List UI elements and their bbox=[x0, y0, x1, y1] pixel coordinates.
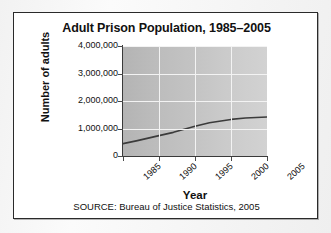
y-axis-tick-label: 2,000,000 bbox=[48, 95, 118, 105]
figure-page: Adult Prison Population, 1985–2005 Numbe… bbox=[0, 0, 331, 233]
x-axis-tick-label: 1990 bbox=[177, 161, 199, 182]
y-axis-tick-mark bbox=[118, 129, 123, 130]
x-axis-tick-label: 1985 bbox=[141, 161, 163, 182]
x-axis-tick-mark bbox=[267, 157, 268, 161]
source-note: SOURCE: Bureau of Justice Statistics, 20… bbox=[14, 201, 319, 212]
y-axis-tick-mark bbox=[118, 101, 123, 102]
x-axis-tick-mark bbox=[231, 157, 232, 161]
y-axis-tick-mark bbox=[118, 74, 123, 75]
y-axis-tick-labels: 01,000,0002,000,0003,000,0004,000,000 bbox=[46, 13, 118, 213]
y-axis-tick-label: 0 bbox=[48, 150, 118, 160]
figure-card: Adult Prison Population, 1985–2005 Numbe… bbox=[13, 12, 318, 219]
x-axis-tick-mark bbox=[159, 157, 160, 161]
gridline-vertical bbox=[231, 46, 232, 156]
y-axis-tick-mark bbox=[118, 46, 123, 47]
x-axis-title: Year bbox=[123, 189, 267, 201]
x-axis-tick-label: 2005 bbox=[285, 161, 307, 182]
y-axis-tick-label: 4,000,000 bbox=[48, 40, 118, 50]
y-axis-tick-label: 3,000,000 bbox=[48, 68, 118, 78]
gridline-vertical bbox=[159, 46, 160, 156]
x-axis-tick-mark bbox=[123, 157, 124, 161]
plot-area bbox=[123, 46, 267, 156]
gridline-vertical bbox=[195, 46, 196, 156]
x-axis-tick-mark bbox=[195, 157, 196, 161]
x-axis-tick-label: 2000 bbox=[249, 161, 271, 182]
x-axis-tick-label: 1995 bbox=[213, 161, 235, 182]
y-axis-tick-label: 1,000,000 bbox=[48, 123, 118, 133]
